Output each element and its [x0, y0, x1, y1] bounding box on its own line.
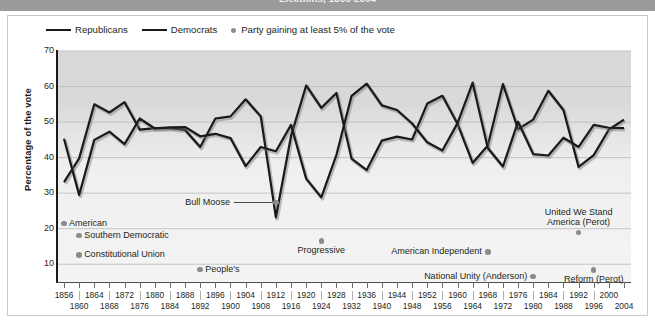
- y-tick-label-70: 70: [34, 45, 54, 55]
- x-label-1968: 1968: [478, 290, 497, 300]
- annotation-national-unity-anderson: National Unity (Anderson): [57, 271, 527, 282]
- legend-item-democrats: Democrats: [142, 25, 217, 35]
- annotation-line-2: America (Perot): [545, 217, 613, 228]
- x-label-separator: [594, 291, 595, 300]
- x-label-1988: 1988: [554, 301, 573, 311]
- x-label-1908: 1908: [251, 301, 270, 311]
- x-label-1944: 1944: [388, 290, 407, 300]
- x-label-separator: [352, 291, 353, 300]
- x-tick-1920: [306, 282, 307, 288]
- x-tick-1964: [473, 282, 474, 288]
- third-party-dot-swatch: [231, 28, 236, 33]
- x-label-1876: 1876: [130, 301, 149, 311]
- x-label-2004: 2004: [615, 301, 634, 311]
- legend-label-democrats: Democrats: [171, 25, 217, 35]
- x-label-1952: 1952: [418, 290, 437, 300]
- x-label-separator: [291, 291, 292, 300]
- x-tick-1948: [412, 282, 413, 288]
- x-tick-1864: [94, 282, 95, 288]
- x-label-2000: 2000: [600, 290, 619, 300]
- x-label-separator: [321, 291, 322, 300]
- x-tick-1916: [291, 282, 292, 288]
- annotation-leader-line: [234, 202, 272, 203]
- x-tick-1952: [427, 282, 428, 288]
- x-tick-1928: [336, 282, 337, 288]
- x-label-1956: 1956: [433, 301, 452, 311]
- y-tick-label-10: 10: [34, 258, 54, 268]
- x-label-separator: [140, 291, 141, 300]
- x-tick-1932: [352, 282, 353, 288]
- x-label-1864: 1864: [85, 290, 104, 300]
- y-tick-label-30: 30: [34, 187, 54, 197]
- x-tick-1856: [64, 282, 65, 288]
- x-tick-2000: [609, 282, 610, 288]
- y-tick-label-50: 50: [34, 116, 54, 126]
- x-label-1984: 1984: [539, 290, 558, 300]
- figure-frame: Republicans Democrats Party gaining at l…: [7, 15, 648, 316]
- x-label-separator: [442, 291, 443, 300]
- x-label-1964: 1964: [463, 301, 482, 311]
- page-banner: Elections, 1856-2004: [0, 0, 655, 11]
- third-party-dot-progressive: [319, 238, 325, 244]
- plot-area: AmericanSouthern DemocraticConstitutiona…: [57, 51, 631, 282]
- x-tick-1936: [367, 282, 368, 288]
- x-tick-2004: [624, 282, 625, 288]
- x-label-1916: 1916: [282, 301, 301, 311]
- x-tick-1984: [548, 282, 549, 288]
- x-label-1912: 1912: [267, 290, 286, 300]
- third-party-dot-southern-democratic: [76, 233, 82, 239]
- y-axis-ticks: 70605040302010: [30, 16, 54, 317]
- y-tick-label-40: 40: [34, 152, 54, 162]
- x-tick-1996: [594, 282, 595, 288]
- annotation-bull-moose: Bull Moose: [57, 197, 230, 208]
- x-label-1920: 1920: [297, 290, 316, 300]
- x-tick-1900: [230, 282, 231, 288]
- x-label-1960: 1960: [448, 290, 467, 300]
- x-label-separator: [109, 291, 110, 300]
- x-label-1996: 1996: [584, 301, 603, 311]
- x-label-separator: [170, 291, 171, 300]
- x-label-1892: 1892: [191, 301, 210, 311]
- y-tick-label-60: 60: [34, 81, 54, 91]
- x-label-1976: 1976: [509, 290, 528, 300]
- x-label-1980: 1980: [524, 301, 543, 311]
- x-tick-1968: [488, 282, 489, 288]
- x-tick-1876: [140, 282, 141, 288]
- x-tick-1940: [382, 282, 383, 288]
- x-tick-1992: [579, 282, 580, 288]
- annotation-southern-democratic: Southern Democratic: [84, 230, 169, 241]
- x-label-1924: 1924: [312, 301, 331, 311]
- x-label-1888: 1888: [176, 290, 195, 300]
- x-tick-1956: [442, 282, 443, 288]
- y-axis-spine: [56, 50, 58, 283]
- x-label-separator: [503, 291, 504, 300]
- x-label-1992: 1992: [569, 290, 588, 300]
- x-label-1880: 1880: [145, 290, 164, 300]
- x-label-1856: 1856: [55, 290, 74, 300]
- x-tick-1892: [200, 282, 201, 288]
- x-label-separator: [261, 291, 262, 300]
- third-party-dot-bull-moose: [273, 200, 279, 206]
- x-tick-1880: [155, 282, 156, 288]
- x-label-1896: 1896: [206, 290, 225, 300]
- x-tick-1972: [503, 282, 504, 288]
- x-label-separator: [473, 291, 474, 300]
- x-label-1900: 1900: [221, 301, 240, 311]
- x-label-1868: 1868: [100, 301, 119, 311]
- line-democrats: [64, 83, 624, 198]
- annotation-line-1: United We Stand: [545, 207, 613, 218]
- x-label-separator: [412, 291, 413, 300]
- x-label-separator: [200, 291, 201, 300]
- x-tick-1860: [79, 282, 80, 288]
- annotation-united-we-stand-america-perot: United We StandAmerica (Perot): [545, 207, 613, 228]
- x-label-1932: 1932: [342, 301, 361, 311]
- legend-item-republicans: Republicans: [46, 25, 128, 35]
- third-party-dot-american-independent: [485, 249, 491, 255]
- x-label-1972: 1972: [494, 301, 513, 311]
- x-tick-1888: [185, 282, 186, 288]
- x-tick-1868: [109, 282, 110, 288]
- x-label-1884: 1884: [161, 301, 180, 311]
- x-label-1872: 1872: [115, 290, 134, 300]
- x-tick-1960: [458, 282, 459, 288]
- x-tick-1980: [533, 282, 534, 288]
